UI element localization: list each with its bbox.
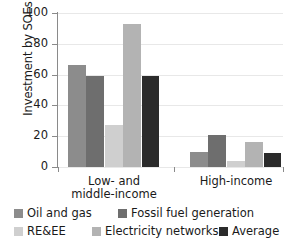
bar [123, 24, 141, 167]
bar-chart-figure: Investment by SOEs (%) 020406080100 Low-… [0, 0, 291, 249]
bar [68, 65, 86, 167]
legend-label: Oil and gas [27, 207, 92, 219]
legend-label: Electricity networks [105, 225, 218, 237]
bar [208, 135, 226, 167]
legend-item[interactable]: Fossil fuel generation [118, 207, 254, 219]
y-tick-label: 20 [24, 130, 48, 142]
gridline [58, 167, 283, 168]
x-tick-mark [283, 167, 284, 172]
y-tick-label: 80 [24, 38, 48, 50]
y-tick-label: 40 [24, 99, 48, 111]
legend-swatch-icon [118, 209, 127, 218]
x-tick-mark [174, 167, 175, 172]
legend-swatch-icon [92, 227, 101, 236]
bar [245, 142, 263, 167]
legend-swatch-icon [14, 227, 23, 236]
bar [86, 76, 104, 167]
legend-swatch-icon [14, 209, 23, 218]
x-group-label: Low- and middle-income [54, 175, 174, 201]
legend-item[interactable]: Oil and gas [14, 207, 92, 219]
x-tick-mark [58, 167, 59, 172]
legend-label: RE&EE [27, 225, 66, 237]
plot-area [58, 13, 283, 167]
gridline [58, 13, 283, 14]
legend-item[interactable]: Average [219, 225, 279, 237]
y-tick-label: 100 [24, 7, 48, 19]
legend-label: Average [232, 225, 279, 237]
legend-swatch-icon [219, 227, 228, 236]
bar [105, 125, 123, 167]
legend-label: Fossil fuel generation [131, 207, 254, 219]
gridline [58, 44, 283, 45]
bar [190, 152, 208, 167]
bar [142, 76, 160, 167]
legend-item[interactable]: Electricity networks [92, 225, 218, 237]
chart-legend: Oil and gasFossil fuel generationRE&EEEl… [14, 207, 284, 243]
x-group-label: High-income [176, 175, 291, 188]
y-tick-label: 0 [24, 161, 48, 173]
bar [264, 153, 282, 167]
legend-item[interactable]: RE&EE [14, 225, 66, 237]
bar [227, 161, 245, 167]
y-tick-label: 60 [24, 69, 48, 81]
